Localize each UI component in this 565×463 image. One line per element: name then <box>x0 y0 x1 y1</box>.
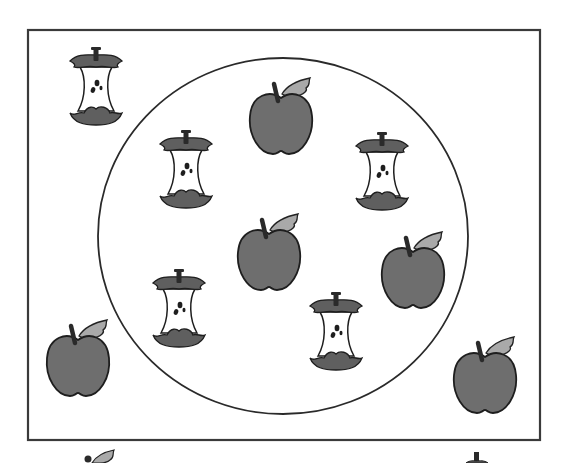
partial-core-bottom <box>466 452 488 463</box>
leaf-icon <box>92 450 114 463</box>
partial-apple-bottom <box>85 450 115 463</box>
apple-sorting-diagram <box>0 0 565 463</box>
stem-icon <box>85 456 92 463</box>
